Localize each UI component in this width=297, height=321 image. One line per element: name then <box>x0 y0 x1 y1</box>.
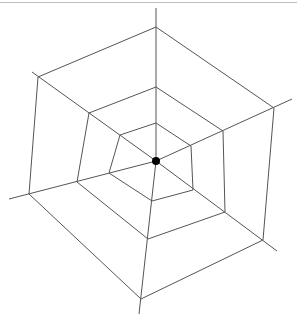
spider-web-diagram <box>0 0 297 321</box>
ring-middle <box>77 87 225 239</box>
rings-group <box>29 27 274 299</box>
spoke-left-upper <box>32 72 156 161</box>
spoke-right-lower <box>156 161 277 251</box>
web-graphic <box>0 0 297 321</box>
spokes-group <box>9 8 292 314</box>
ring-outer <box>29 27 274 299</box>
center-dot <box>152 157 160 165</box>
